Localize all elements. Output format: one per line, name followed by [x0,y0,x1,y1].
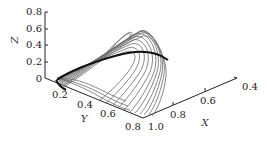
y-tick-label: 0.8 [125,121,141,132]
x-tick-label: 0.6 [200,95,216,106]
z-tick-label: 0.4 [26,39,42,50]
x-axis-label: X [200,117,209,128]
y-tick-label: 0.6 [100,108,116,119]
surface-curves [57,31,166,116]
z-tick-label: 0.8 [26,6,42,17]
3d-surface-plot: 0.8 0.6 0.4 0.2 0 Z 0.2 0.4 0.6 0.8 Y 1.… [0,0,267,141]
z-tick-label: 0.2 [26,56,42,67]
y-axis-label: Y [81,113,89,124]
z-tick-label: 0.6 [26,23,42,34]
x-axis: 1.0 0.8 0.6 0.4 X [143,77,258,132]
z-axis-label: Z [9,35,20,44]
z-axis: 0.8 0.6 0.4 0.2 0 Z [9,6,48,84]
x-tick-label: 0.4 [242,81,258,92]
z-tick-label: 0 [36,73,42,84]
x-tick-label: 0.8 [170,109,186,120]
x-tick-label: 1.0 [148,121,164,132]
y-tick-label: 0.4 [77,99,93,110]
